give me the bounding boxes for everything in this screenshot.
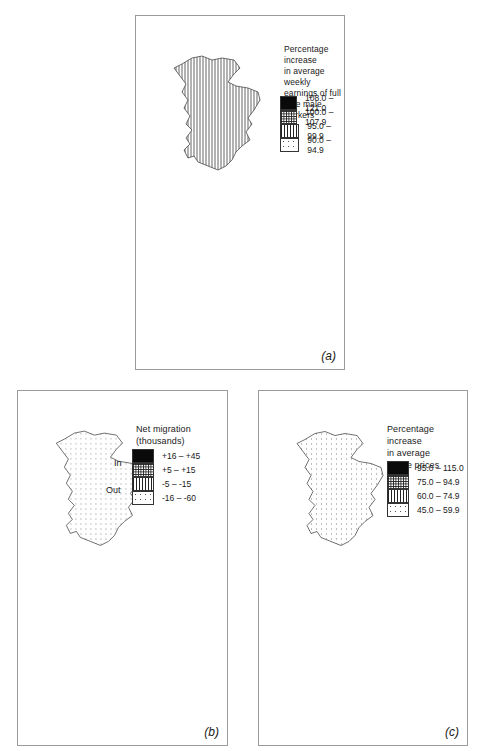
legend-swatch — [387, 475, 409, 489]
legend-swatch — [280, 138, 299, 152]
legend-label: 60.0 – 74.9 — [417, 491, 460, 501]
legend-item: 95.0 – 115.0 — [387, 461, 464, 475]
map-panel-migration: Net migration (thousands) In Out +16 – +… — [17, 390, 228, 746]
legend-swatch — [387, 489, 409, 503]
legend-item: -16 – -60 — [132, 491, 196, 505]
legend-item: 90.0 – 94.9 — [280, 138, 344, 152]
legend-label: +16 – +45 — [162, 451, 200, 461]
map-canvas — [18, 391, 229, 747]
legend-label: 45.0 – 59.9 — [417, 505, 460, 515]
region-scotland — [56, 431, 142, 545]
legend-item: +5 – +15 — [132, 463, 196, 477]
uk-map — [297, 432, 383, 546]
legend-item: 60.0 – 74.9 — [387, 489, 460, 503]
legend-out-label: Out — [106, 485, 121, 495]
panel-label: (a) — [321, 349, 336, 363]
legend-swatch — [132, 491, 154, 505]
legend-label: 95.0 – 115.0 — [417, 463, 464, 473]
legend-item: 75.0 – 94.9 — [387, 475, 460, 489]
uk-map — [174, 56, 260, 170]
legend-item: -5 – -15 — [132, 477, 191, 491]
legend-swatch — [132, 463, 154, 477]
uk-map — [56, 431, 142, 545]
map-panel-house-prices: Percentage increase in average house pri… — [258, 390, 468, 746]
legend-swatch — [132, 477, 154, 491]
legend-item: 45.0 – 59.9 — [387, 503, 460, 517]
panel-label: (c) — [445, 725, 459, 739]
legend-in-label: In — [114, 458, 122, 468]
legend-swatch — [387, 503, 409, 517]
legend-item: +16 – +45 — [132, 449, 200, 463]
region-scotland — [174, 56, 260, 170]
panel-label: (b) — [204, 725, 219, 739]
legend-swatch — [280, 96, 297, 110]
legend-label: +5 – +15 — [162, 465, 196, 475]
legend-title: Net migration (thousands) — [136, 423, 191, 447]
legend-swatch — [280, 110, 297, 124]
map-panel-earnings: Percentage increase in average weekly ea… — [135, 15, 345, 370]
legend-label: -16 – -60 — [162, 493, 196, 503]
legend-swatch — [132, 449, 154, 463]
region-scotland — [297, 432, 383, 546]
legend-swatch — [387, 461, 409, 475]
legend-label: 90.0 – 94.9 — [307, 135, 344, 155]
legend-swatch — [280, 124, 299, 138]
legend-label: -5 – -15 — [162, 479, 191, 489]
legend-label: 75.0 – 94.9 — [417, 477, 460, 487]
